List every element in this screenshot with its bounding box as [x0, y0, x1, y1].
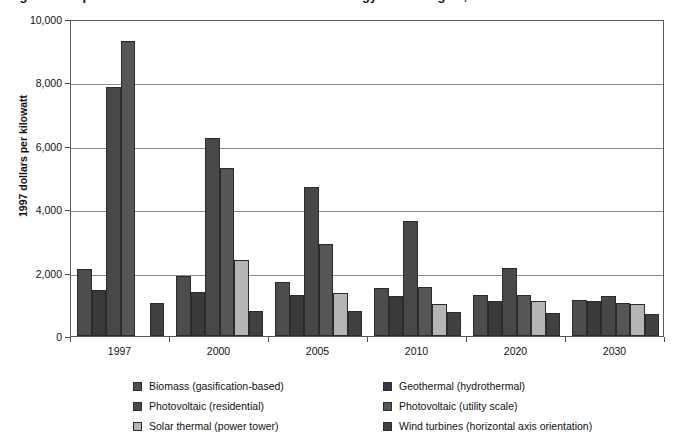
bar-group [374, 21, 461, 336]
bar-group [473, 21, 560, 336]
bar[interactable] [601, 296, 616, 336]
bar[interactable] [333, 293, 348, 336]
legend-swatch-icon [133, 422, 142, 431]
bar[interactable] [150, 303, 165, 336]
legend-column-right: Geothermal (hydrothermal)Photovoltaic (u… [383, 376, 592, 436]
bar[interactable] [319, 244, 334, 336]
bar[interactable] [502, 268, 517, 336]
bar[interactable] [348, 311, 363, 336]
x-tick-mark [367, 337, 368, 342]
bar[interactable] [249, 311, 264, 336]
legend-swatch-icon [133, 402, 142, 411]
legend-label: Geothermal (hydrothermal) [399, 381, 525, 392]
legend-item[interactable]: Photovoltaic (residential) [133, 396, 284, 416]
legend-swatch-icon [133, 382, 142, 391]
bar[interactable] [77, 269, 92, 336]
legend-label: Wind turbines (horizontal axis orientati… [399, 421, 592, 432]
legend-label: Photovoltaic (residential) [149, 401, 264, 412]
legend-item[interactable]: Photovoltaic (utility scale) [383, 396, 592, 416]
legend-item[interactable]: Wind turbines (horizontal axis orientati… [383, 416, 592, 436]
bar[interactable] [531, 301, 546, 336]
bar[interactable] [92, 290, 107, 336]
bar[interactable] [374, 288, 389, 336]
bar[interactable] [572, 300, 587, 336]
bar[interactable] [106, 87, 121, 336]
bar[interactable] [546, 313, 561, 336]
legend-label: Solar thermal (power tower) [149, 421, 279, 432]
legend-item[interactable]: Geothermal (hydrothermal) [383, 376, 592, 396]
bar[interactable] [304, 187, 319, 336]
x-tick-label: 2020 [504, 345, 527, 357]
y-tick-label: 2,000 [36, 268, 62, 280]
legend-swatch-icon [383, 382, 392, 391]
bar[interactable] [473, 295, 488, 336]
x-tick-label: 2005 [306, 345, 329, 357]
bar[interactable] [418, 287, 433, 336]
y-axis-title: 1997 dollars per kilowatt [17, 41, 29, 271]
bar[interactable] [191, 292, 206, 336]
bar[interactable] [587, 301, 602, 337]
x-tick-mark [664, 337, 665, 342]
legend-label: Biomass (gasification-based) [149, 381, 284, 392]
y-tick-label: 10,000 [30, 14, 62, 26]
y-tick-label: 0 [56, 331, 62, 343]
bar[interactable] [630, 304, 645, 336]
y-tick-label: 6,000 [36, 141, 62, 153]
y-axis: 02,0004,0006,0008,00010,000 [0, 0, 70, 360]
legend: Biomass (gasification-based)Photovoltaic… [133, 376, 653, 438]
legend-item[interactable]: Biomass (gasification-based) [133, 376, 284, 396]
bar[interactable] [645, 314, 660, 336]
y-tick-label: 8,000 [36, 77, 62, 89]
plot-area [70, 20, 664, 337]
bar[interactable] [616, 303, 631, 336]
bar[interactable] [447, 312, 462, 336]
bar[interactable] [517, 295, 532, 336]
legend-label: Photovoltaic (utility scale) [399, 401, 517, 412]
x-tick-mark [70, 337, 71, 342]
bar[interactable] [389, 296, 404, 336]
y-tick-label: 4,000 [36, 204, 62, 216]
legend-item[interactable]: Solar thermal (power tower) [133, 416, 284, 436]
x-tick-mark [466, 337, 467, 342]
x-tick-mark [169, 337, 170, 342]
bar[interactable] [205, 138, 220, 336]
bar-group [77, 21, 164, 336]
x-tick-mark [565, 337, 566, 342]
legend-swatch-icon [383, 402, 392, 411]
bar-group [275, 21, 362, 336]
x-tick-mark [268, 337, 269, 342]
x-tick-label: 2000 [207, 345, 230, 357]
figure-title-strip: Figure 5. Capital Cost Estimates for New… [0, 0, 684, 9]
figure-title: Figure 5. Capital Cost Estimates for New… [8, 0, 533, 3]
bar[interactable] [432, 304, 447, 336]
bar[interactable] [220, 168, 235, 336]
legend-column-left: Biomass (gasification-based)Photovoltaic… [133, 376, 284, 436]
bar[interactable] [176, 276, 191, 336]
x-tick-label: 2030 [603, 345, 626, 357]
bar[interactable] [488, 301, 503, 336]
bar[interactable] [275, 282, 290, 336]
bar[interactable] [121, 41, 136, 336]
bar-group [572, 21, 659, 336]
legend-swatch-icon [383, 422, 392, 431]
x-tick-label: 2010 [405, 345, 428, 357]
bar[interactable] [234, 260, 249, 336]
x-axis: 199720002005201020202030 [70, 337, 664, 361]
bar-group [176, 21, 263, 336]
x-tick-label: 1997 [108, 345, 131, 357]
bar[interactable] [290, 295, 305, 336]
bar[interactable] [403, 221, 418, 336]
